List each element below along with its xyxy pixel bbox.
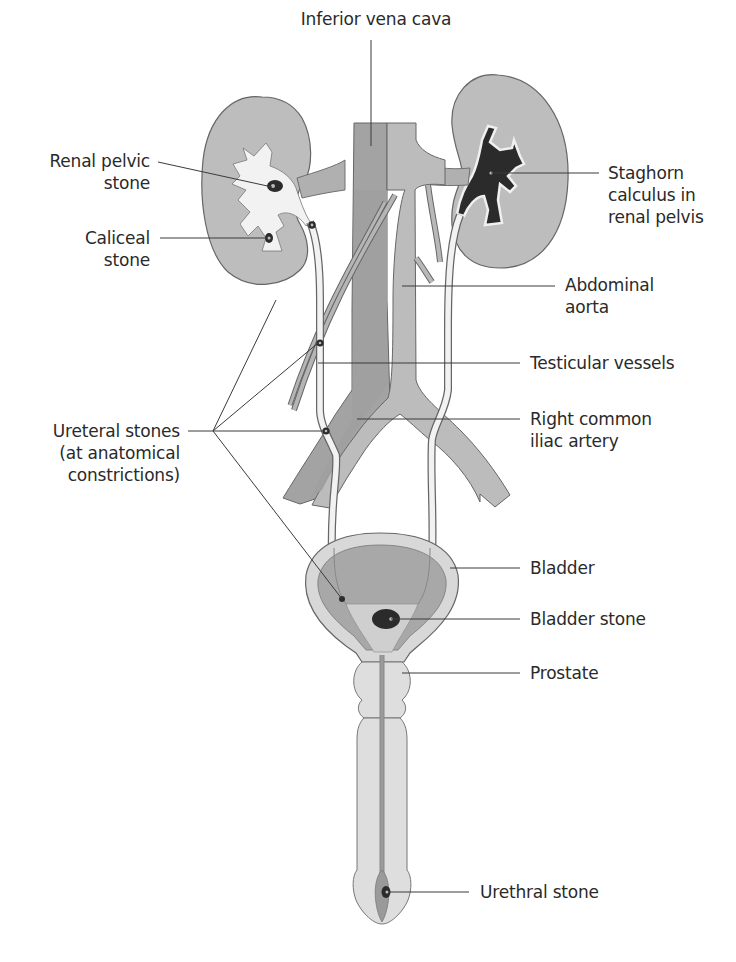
label-renal-pelvic-stone: Renal pelvic stone	[20, 150, 150, 194]
leader-ureteral-a	[213, 300, 276, 431]
label-caliceal-stone: Caliceal stone	[20, 227, 150, 271]
label-staghorn-calculus: Staghorn calculus in renal pelvis	[608, 162, 704, 228]
label-prostate: Prostate	[530, 662, 598, 684]
label-bladder-stone: Bladder stone	[530, 608, 646, 630]
label-ureteral-stones: Ureteral stones (at anatomical constrict…	[20, 420, 180, 486]
right-kidney	[202, 97, 311, 285]
label-testicular-vessels: Testicular vessels	[530, 352, 675, 374]
label-bladder: Bladder	[530, 557, 594, 579]
label-inferior-vena-cava: Inferior vena cava	[291, 8, 461, 30]
label-urethral-stone: Urethral stone	[480, 881, 599, 903]
urinary-stones-diagram: Inferior vena cava Renal pelvic stone Ca…	[0, 0, 736, 962]
bladder	[305, 533, 458, 662]
label-abdominal-aorta: Abdominal aorta	[565, 274, 654, 318]
label-right-common-iliac-artery: Right common iliac artery	[530, 408, 652, 452]
